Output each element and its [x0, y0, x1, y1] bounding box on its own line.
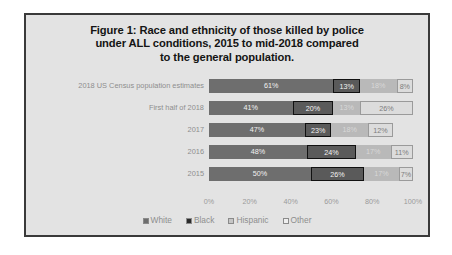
bar-row: 201550%26%17%7% — [26, 167, 428, 181]
legend-item-black[interactable]: Black — [186, 215, 214, 225]
bar-segment-other: 11% — [391, 145, 413, 159]
bar-row-label: 2018 US Census population estimates — [28, 79, 204, 93]
bar-segment-hispanic: 13% — [333, 101, 360, 115]
bar-row: First half of 201841%20%13%26% — [26, 101, 428, 115]
bar-row: 201747%23%18%12% — [26, 123, 428, 137]
bar-row: 201648%24%17%11% — [26, 145, 428, 159]
legend-item-white[interactable]: White — [143, 215, 172, 225]
bar-segment-hispanic: 17% — [356, 145, 391, 159]
chart-legend: WhiteBlackHispanicOther — [26, 215, 428, 225]
bar-segment-black: 24% — [307, 145, 356, 159]
legend-swatch-icon — [186, 218, 192, 224]
x-axis-tick-label: 40% — [283, 197, 297, 206]
figure-panel: Figure 1: Race and ethnicity of those ki… — [24, 13, 430, 237]
legend-item-label: White — [151, 215, 172, 225]
bar-segment-hispanic: 18% — [331, 123, 368, 137]
x-axis-tick-label: 0% — [204, 197, 214, 206]
bar-segment-black: 23% — [305, 123, 332, 137]
bar-track: 47%23%18%12% — [209, 123, 413, 137]
legend-swatch-icon — [283, 218, 289, 224]
plot-area: 2018 US Census population estimates61%13… — [26, 75, 428, 195]
bar-track: 61%13%18%8% — [209, 79, 413, 93]
bar-row-label: 2017 — [28, 123, 204, 137]
bar-track: 48%24%17%11% — [209, 145, 413, 159]
bar-segment-other: 8% — [397, 79, 413, 93]
chart-title-line-1: Figure 1: Race and ethnicity of those ki… — [40, 24, 414, 37]
x-axis-tick-label: 80% — [365, 197, 379, 206]
bar-segment-other: 26% — [360, 101, 413, 115]
x-axis-tick-label: 100% — [404, 197, 422, 206]
legend-swatch-icon — [143, 218, 149, 224]
bar-segment-white: 61% — [209, 79, 333, 93]
bar-row-label: 2015 — [28, 167, 204, 181]
bar-segment-hispanic: 18% — [360, 79, 397, 93]
bar-segment-white: 48% — [209, 145, 307, 159]
legend-item-label: Black — [194, 215, 214, 225]
bar-row: 2018 US Census population estimates61%13… — [26, 79, 428, 93]
legend-item-label: Hispanic — [236, 215, 268, 225]
x-axis-tick-label: 20% — [243, 197, 257, 206]
legend-item-label: Other — [291, 215, 312, 225]
bar-segment-white: 41% — [209, 101, 293, 115]
bar-segment-black: 13% — [333, 79, 360, 93]
chart-title-line-3: to the general population. — [40, 51, 414, 64]
bar-track: 41%20%13%26% — [209, 101, 413, 115]
bar-track: 50%26%17%7% — [209, 167, 413, 181]
legend-item-hispanic[interactable]: Hispanic — [228, 215, 268, 225]
chart-title: Figure 1: Race and ethnicity of those ki… — [40, 24, 414, 64]
chart-title-line-2: under ALL conditions, 2015 to mid-2018 c… — [40, 37, 414, 50]
legend-swatch-icon — [228, 218, 234, 224]
bar-segment-other: 12% — [368, 123, 392, 137]
x-axis: 0%20%40%60%80%100% — [209, 197, 413, 209]
bar-segment-black: 20% — [293, 101, 334, 115]
x-axis-tick-label: 60% — [324, 197, 338, 206]
bar-row-label: 2016 — [28, 145, 204, 159]
bar-row-label: First half of 2018 — [28, 101, 204, 115]
bar-segment-black: 26% — [311, 167, 364, 181]
bar-segment-white: 47% — [209, 123, 305, 137]
legend-item-other[interactable]: Other — [283, 215, 312, 225]
bar-segment-other: 7% — [399, 167, 413, 181]
bar-segment-white: 50% — [209, 167, 311, 181]
bar-segment-hispanic: 17% — [364, 167, 399, 181]
